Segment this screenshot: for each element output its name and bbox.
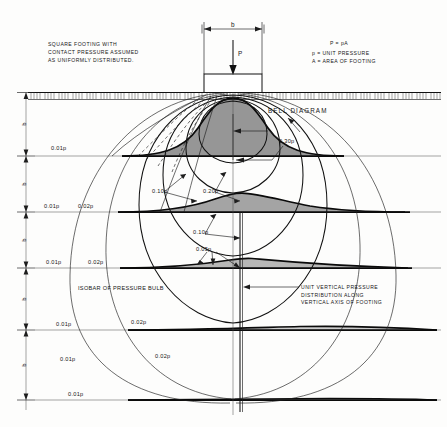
load-arrow bbox=[229, 40, 236, 75]
level2-0.10p-callout bbox=[205, 214, 240, 240]
title-note-line3: AS UNIFORMLY DISTRIBUTED. bbox=[48, 57, 134, 63]
width-dimension-label: b bbox=[231, 21, 235, 28]
label-iso-c-right: 0.02p bbox=[88, 259, 104, 265]
right-note-line1: UNIT VERTICAL PRESSURE bbox=[301, 284, 378, 290]
isobar-label: ISOBAR OF PRESSURE BULB bbox=[78, 285, 164, 291]
label-iso-e-right: 0.02p bbox=[155, 353, 171, 359]
pressure-bulb-diagram: b P b b b b b bbox=[0, 0, 447, 427]
label-iso-d-left: 0.01p bbox=[56, 321, 72, 327]
load-label: P bbox=[238, 50, 243, 57]
label-iso-d-right: 0.02p bbox=[131, 319, 147, 325]
label-iso-f-left: 0.01p bbox=[68, 391, 84, 397]
depth-label-4: b bbox=[21, 297, 27, 301]
title-note-line1: SQUARE FOOTING WITH bbox=[48, 41, 117, 47]
depth-label-1: b bbox=[21, 122, 27, 126]
label-level2-upper: 0.10p bbox=[193, 229, 209, 235]
pressure-distribution-level-2b bbox=[118, 193, 410, 212]
depth-label-3: b bbox=[21, 238, 27, 242]
pressure-distribution-level-4b bbox=[128, 326, 437, 330]
legend-note-line2: p = UNIT PRESSURE bbox=[312, 50, 370, 56]
label-level2-lower: 0.05p bbox=[196, 246, 212, 252]
label-iso-a-left: 0.01p bbox=[51, 145, 67, 151]
depth-label-5: b bbox=[21, 363, 27, 367]
depth-label-2: b bbox=[21, 182, 27, 186]
label-level1-left: 0.10p bbox=[152, 188, 168, 194]
label-iso-b-right: 0.02p bbox=[78, 203, 94, 209]
bell-diagram-label: BELL DIAGRAM bbox=[268, 107, 328, 114]
right-note-line3: VERTICAL AXIS OF FOOTING bbox=[301, 299, 382, 305]
label-bell-peak: 0.30p bbox=[279, 138, 295, 144]
legend-note-line1: P = pA bbox=[330, 40, 348, 46]
figure-canvas: b P b b b b b bbox=[0, 0, 447, 427]
footing-block bbox=[204, 74, 262, 93]
right-note-leader bbox=[243, 285, 299, 290]
depth-scale-axis bbox=[17, 93, 35, 411]
pressure-distribution-level-3b bbox=[120, 258, 412, 268]
right-note-line2: DISTRIBUTION ALONG bbox=[301, 292, 364, 298]
label-iso-e-left: 0.01p bbox=[60, 356, 76, 362]
title-note-line2: CONTACT PRESSURE ASSUMED bbox=[48, 49, 139, 55]
label-iso-b-left: 0.01p bbox=[44, 203, 60, 209]
label-level1-right: 0.20p bbox=[203, 188, 219, 194]
label-iso-c-left: 0.01p bbox=[46, 259, 62, 265]
legend-note-line3: A = AREA OF FOOTING bbox=[312, 58, 376, 64]
